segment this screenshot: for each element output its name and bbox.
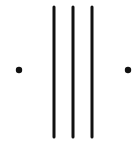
right-dot (125, 67, 131, 73)
vertical-lines-group (54, 7, 92, 137)
parallel-lines-diagram (0, 0, 136, 148)
left-dot (16, 67, 22, 73)
